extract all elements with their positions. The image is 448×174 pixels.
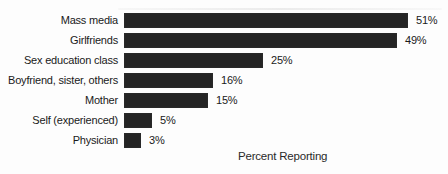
x-axis-label: Percent Reporting <box>238 150 327 162</box>
value-label: 3% <box>149 134 165 146</box>
chart-rows: Mass media51%Girlfriends49%Sex education… <box>0 10 448 150</box>
value-label: 16% <box>221 74 242 86</box>
bar-row: Self (experienced)5% <box>0 110 448 130</box>
bar <box>124 53 263 68</box>
value-label: 5% <box>160 114 176 126</box>
bar-row: Boyfriend, sister, others16% <box>0 70 448 90</box>
category-label: Mother <box>0 94 118 106</box>
value-label: 25% <box>271 54 292 66</box>
value-label: 51% <box>416 14 437 26</box>
bar-chart-figure: Mass media51%Girlfriends49%Sex education… <box>0 0 448 174</box>
bar-row: Mass media51% <box>0 10 448 30</box>
bar <box>124 133 141 148</box>
bar-row: Mother15% <box>0 90 448 110</box>
category-label: Boyfriend, sister, others <box>0 74 118 86</box>
bar <box>124 93 208 108</box>
category-label: Mass media <box>0 14 118 26</box>
category-label: Physician <box>0 134 118 146</box>
value-label: 15% <box>216 94 237 106</box>
bar-row: Girlfriends49% <box>0 30 448 50</box>
bar <box>124 73 213 88</box>
bar <box>124 33 397 48</box>
category-label: Girlfriends <box>0 34 118 46</box>
bar <box>124 113 152 128</box>
value-label: 49% <box>405 34 426 46</box>
category-label: Sex education class <box>0 54 118 66</box>
bar <box>124 13 408 28</box>
category-label: Self (experienced) <box>0 114 118 126</box>
bar-row: Physician3% <box>0 130 448 150</box>
bar-row: Sex education class25% <box>0 50 448 70</box>
